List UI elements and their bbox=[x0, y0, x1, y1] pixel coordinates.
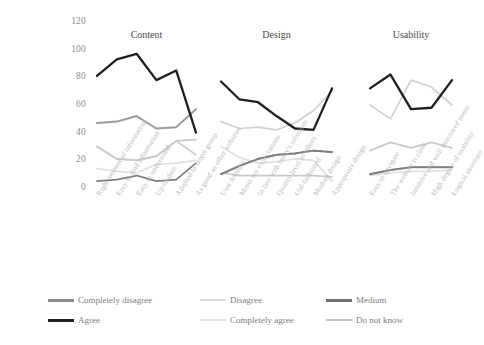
legend-swatch bbox=[200, 299, 226, 301]
legend-swatch bbox=[48, 299, 74, 302]
legend-label: Agree bbox=[78, 316, 100, 325]
legend-item-agree[interactable]: Agree bbox=[48, 314, 100, 326]
legend-label: Completely disagree bbox=[78, 296, 152, 305]
legend-item-medium[interactable]: Medium bbox=[326, 294, 387, 306]
series-line-agree bbox=[221, 81, 332, 129]
panel-title-usability: Usability bbox=[393, 30, 430, 40]
legend-swatch bbox=[48, 319, 74, 322]
legend-item-do-not-know[interactable]: Do not know bbox=[326, 314, 403, 326]
chart-legend: Completely disagreeDisagreeMediumAgreeCo… bbox=[48, 294, 448, 340]
panel-title-content: Content bbox=[131, 30, 163, 40]
legend-label: Disagree bbox=[230, 296, 262, 305]
legend-label: Completely agree bbox=[230, 316, 294, 325]
panel-title-design: Design bbox=[262, 30, 290, 40]
legend-swatch bbox=[326, 299, 352, 302]
legend-label: Medium bbox=[356, 296, 387, 305]
legend-item-disagree[interactable]: Disagree bbox=[200, 294, 262, 306]
legend-item-completely-agree[interactable]: Completely agree bbox=[200, 314, 294, 326]
legend-item-completely-disagree[interactable]: Completely disagree bbox=[48, 294, 152, 306]
series-line-completely-agree bbox=[370, 80, 452, 119]
legend-swatch bbox=[326, 319, 352, 321]
legend-label: Do not know bbox=[356, 316, 403, 325]
legend-swatch bbox=[200, 319, 226, 321]
